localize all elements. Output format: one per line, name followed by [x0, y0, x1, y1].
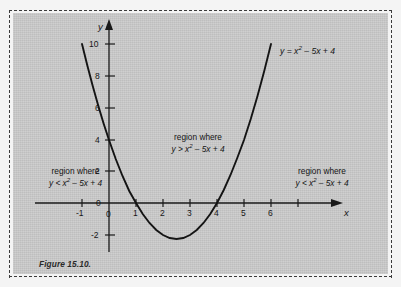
- region-right-rhs: – 5x + 4: [317, 178, 349, 188]
- region-left-line1: region where: [52, 166, 100, 176]
- y-tick-label-6: 6: [95, 104, 100, 113]
- y-tick-label--2: -2: [91, 231, 99, 240]
- curve-equation-label: y = x2 – 5x + 4: [280, 47, 335, 56]
- x-axis-label: x: [344, 208, 349, 218]
- x-axis-arrow: [331, 199, 343, 207]
- y-tick-label-10: 10: [89, 40, 98, 49]
- region-above-lhs: y > x: [171, 144, 189, 154]
- y-axis-label: y: [98, 22, 103, 32]
- plot-panel: -1 0 1 2 3 4 5 6 10 8 6 4 2 0 -2 y x y =…: [13, 13, 388, 274]
- x-tick-label-4: 4: [214, 209, 219, 218]
- region-right-lhs: y < x: [295, 178, 313, 188]
- figure-border-top: [8, 9, 393, 12]
- y-tick-label-0: 0: [96, 199, 101, 208]
- region-above-line1: region where: [174, 132, 222, 142]
- x-tick-label-1: 1: [133, 209, 138, 218]
- y-tick-label-4: 4: [95, 136, 100, 145]
- region-left-lhs: y < x: [49, 178, 67, 188]
- region-left-rhs: – 5x + 4: [70, 178, 102, 188]
- region-label-above: region where y > x2 – 5x + 4: [143, 131, 253, 155]
- y-axis-ticks: [105, 44, 115, 235]
- x-tick-label-0: 0: [106, 210, 111, 219]
- region-right-line1: region where: [298, 166, 346, 176]
- y-tick-label-8: 8: [95, 72, 100, 81]
- x-tick-label-6: 6: [268, 209, 273, 218]
- figure-border-right: [390, 9, 393, 278]
- figure-border-left: [8, 9, 11, 278]
- x-tick-label-5: 5: [241, 209, 246, 218]
- region-above-rhs: – 5x + 4: [193, 144, 225, 154]
- figure-border-bottom: [8, 275, 393, 278]
- figure-caption: Figure 15.10.: [39, 259, 91, 269]
- y-axis-arrow: [105, 19, 113, 30]
- x-tick-label--1: -1: [76, 209, 84, 218]
- x-tick-label-2: 2: [160, 209, 165, 218]
- figure-container: -1 0 1 2 3 4 5 6 10 8 6 4 2 0 -2 y x y =…: [0, 0, 401, 287]
- region-label-right: region where y < x2 – 5x + 4: [267, 165, 377, 189]
- x-tick-label-3: 3: [187, 209, 192, 218]
- equation-lhs: y = x: [280, 46, 298, 56]
- equation-rhs: – 5x + 4: [302, 46, 335, 56]
- region-label-left: region where y < x2 – 5x + 4: [23, 165, 128, 189]
